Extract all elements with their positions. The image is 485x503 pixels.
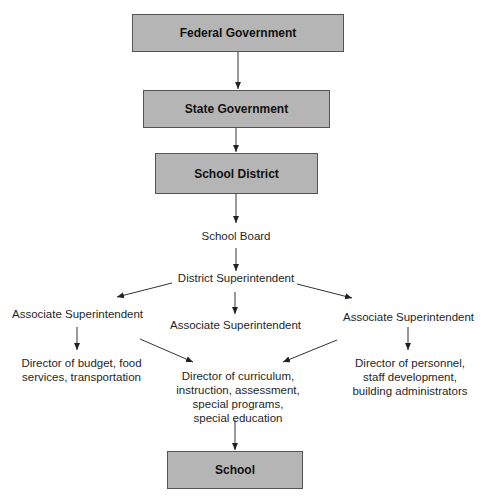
node-district-superintendent: District Superintendent	[166, 271, 306, 285]
node-school: School	[167, 451, 303, 489]
edge-superintendent-assoc-right	[297, 284, 352, 298]
edge-superintendent-assoc-left	[117, 283, 172, 297]
edge-assoc-right-curriculum	[283, 340, 337, 362]
node-state-government: State Government	[143, 90, 330, 128]
node-associate-superintendent-center: Associate Superintendent	[170, 318, 300, 332]
node-director-curriculum: Director of curriculum, instruction, ass…	[174, 369, 302, 425]
node-associate-superintendent-right: Associate Superintendent	[343, 310, 473, 324]
node-associate-superintendent-left: Associate Superintendent	[12, 307, 142, 321]
node-school-district: School District	[155, 153, 318, 194]
node-label: School District	[194, 167, 279, 181]
node-director-personnel: Director of personnel, staff development…	[346, 356, 474, 398]
connector-lines	[0, 0, 485, 503]
node-label: School	[215, 463, 255, 477]
node-school-board: School Board	[186, 229, 286, 243]
node-director-budget: Director of budget, food services, trans…	[14, 356, 149, 384]
node-label: State Government	[185, 102, 288, 116]
node-federal-government: Federal Government	[132, 14, 344, 52]
node-label: Federal Government	[180, 26, 297, 40]
